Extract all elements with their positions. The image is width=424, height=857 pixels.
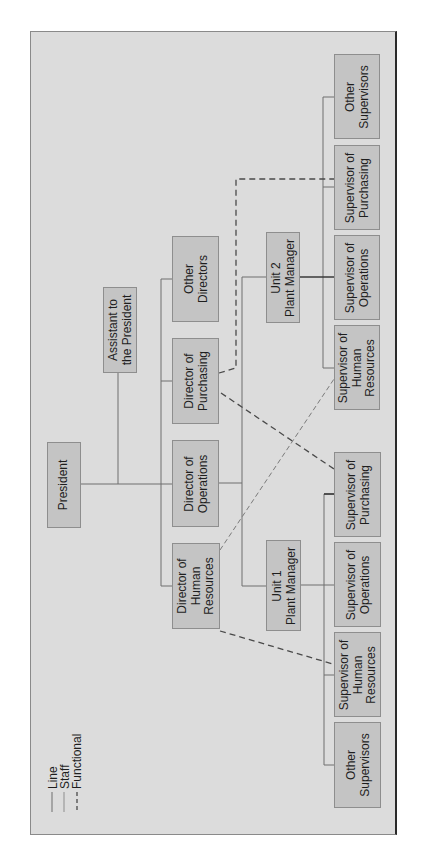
node-director-human-resources: Director of Human Resources (172, 543, 220, 629)
node-unit2-supervisor-purchasing: Supervisor of Purchasing (334, 145, 380, 230)
node-unit1-other-supervisors: Other Supervisors (334, 722, 381, 808)
functional-hr-unit2 (220, 379, 334, 550)
node-unit1-supervisor-human-resources: Supervisor of Human Resources (334, 632, 381, 717)
node-unit1-plant-manager: Unit 1 Plant Manager (266, 540, 301, 631)
node-unit1-supervisor-operations: Supervisor of Operations (334, 542, 381, 627)
node-unit2-supervisor-human-resources: Supervisor of Human Resources (334, 325, 380, 410)
node-director-purchasing: Director of Purchasing (172, 338, 219, 424)
node-unit2-supervisor-operations: Supervisor of Operations (334, 235, 380, 320)
functional-hr-unit1 (220, 631, 333, 664)
legend-functional-label: Functional (71, 734, 83, 789)
node-assistant-to-president: Assistant to the President (103, 287, 137, 373)
node-director-operations: Director of Operations (172, 440, 219, 527)
org-chart: President Assistant to the President Dir… (0, 0, 424, 857)
node-president: President (47, 442, 81, 528)
node-unit2-other-supervisors: Other Supervisors (334, 54, 380, 139)
node-unit1-supervisor-purchasing: Supervisor of Purchasing (334, 452, 381, 537)
node-other-directors: Other Directors (172, 236, 219, 322)
functional-purch-unit1 (221, 393, 334, 469)
node-unit2-plant-manager: Unit 2 Plant Manager (266, 232, 300, 323)
